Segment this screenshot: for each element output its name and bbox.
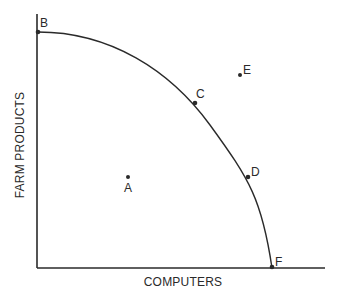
point-c-dot <box>193 101 198 106</box>
point-e-dot <box>238 73 242 77</box>
production-possibilities-curve <box>38 32 272 268</box>
point-b-dot <box>36 30 41 35</box>
point-e-label: E <box>243 63 251 77</box>
point-c-label: C <box>196 87 205 101</box>
point-a-label: A <box>124 181 132 195</box>
point-f-label: F <box>275 255 282 269</box>
point-d-label: D <box>251 165 260 179</box>
point-b-label: B <box>40 16 48 30</box>
point-d-dot <box>246 175 251 180</box>
ppf-diagram: B C E D F A FARM PRODUCTS COMPUTERS <box>0 0 344 296</box>
x-axis-label: COMPUTERS <box>144 275 222 289</box>
point-a-dot <box>126 175 130 179</box>
y-axis-label: FARM PRODUCTS <box>13 92 27 199</box>
point-f-dot <box>270 265 275 270</box>
